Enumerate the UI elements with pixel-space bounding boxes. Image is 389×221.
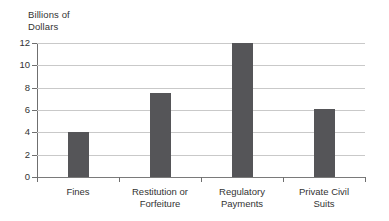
y-axis-title: Billions of Dollars [28,9,70,32]
y-axis-tick-label: 2 [6,150,30,160]
y-axis-tick-labels: 024681012 [0,0,30,221]
y-axis-tick [32,132,37,133]
gridline [37,43,365,44]
x-axis-category-label: Fines [37,186,119,198]
y-axis-tick-label: 6 [6,105,30,115]
x-axis-category-label: Regulatory Payments [201,186,283,209]
gridline [37,88,365,89]
bar [314,109,335,177]
y-axis-tick-label: 4 [6,127,30,137]
bar [68,132,89,177]
y-axis-tick [32,155,37,156]
gridline [37,65,365,66]
x-axis-tick [201,177,202,182]
x-axis-tick [37,177,38,182]
x-axis-category-label: Private Civil Suits [283,186,365,209]
y-axis-tick [32,43,37,44]
y-axis-tick-label: 12 [6,38,30,48]
plot-area [37,43,365,177]
y-axis-tick-label: 8 [6,83,30,93]
bar [150,93,171,177]
y-axis-tick [32,65,37,66]
y-axis-tick [32,88,37,89]
x-axis-tick [283,177,284,182]
bar [232,43,253,177]
x-axis-tick [365,177,366,182]
y-axis-tick-label: 10 [6,60,30,70]
x-axis-category-label: Restitution or Forfeiture [119,186,201,209]
y-axis-tick [32,110,37,111]
y-axis-tick-label: 0 [6,172,30,182]
x-axis-tick [119,177,120,182]
bar-chart: Billions of Dollars 024681012 FinesResti… [0,0,389,221]
